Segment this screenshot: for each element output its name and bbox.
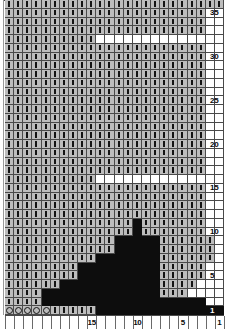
- cell-purl[interactable]: [5, 149, 14, 158]
- cell-filled[interactable]: [142, 263, 151, 272]
- cell-filled[interactable]: [96, 289, 105, 298]
- cell-purl[interactable]: [69, 254, 78, 263]
- cell-purl[interactable]: [51, 236, 60, 245]
- cell-purl[interactable]: [23, 228, 32, 237]
- cell-purl[interactable]: [51, 9, 60, 18]
- cell-filled[interactable]: [124, 254, 133, 263]
- cell-purl[interactable]: [78, 236, 87, 245]
- cell-purl[interactable]: [42, 149, 51, 158]
- cell-purl[interactable]: [32, 96, 41, 105]
- cell-purl[interactable]: [197, 271, 206, 280]
- cell-purl[interactable]: [96, 88, 105, 97]
- cell-purl[interactable]: [51, 210, 60, 219]
- cell-purl[interactable]: [69, 0, 78, 9]
- cell-purl[interactable]: [87, 9, 96, 18]
- cell-purl[interactable]: [60, 18, 69, 27]
- cell-purl[interactable]: [5, 61, 14, 70]
- cell-purl[interactable]: [51, 96, 60, 105]
- cell-purl[interactable]: [78, 166, 87, 175]
- cell-purl[interactable]: [60, 70, 69, 79]
- cell-purl[interactable]: [51, 18, 60, 27]
- cell-purl[interactable]: [160, 149, 169, 158]
- cell-filled[interactable]: [124, 280, 133, 289]
- cell-yarnover[interactable]: [23, 306, 32, 315]
- cell-purl[interactable]: [197, 61, 206, 70]
- cell-purl[interactable]: [42, 79, 51, 88]
- cell-filled[interactable]: [151, 298, 160, 307]
- cell-purl[interactable]: [87, 254, 96, 263]
- cell-purl[interactable]: [188, 201, 197, 210]
- cell-purl[interactable]: [151, 158, 160, 167]
- cell-purl[interactable]: [96, 18, 105, 27]
- cell-purl[interactable]: [169, 123, 178, 132]
- cell-filled[interactable]: [188, 306, 197, 315]
- cell-purl[interactable]: [5, 131, 14, 140]
- cell-filled[interactable]: [197, 298, 206, 307]
- cell-purl[interactable]: [42, 175, 51, 184]
- cell-purl[interactable]: [178, 96, 187, 105]
- cell-purl[interactable]: [87, 123, 96, 132]
- cell-purl[interactable]: [105, 210, 114, 219]
- cell-filled[interactable]: [51, 289, 60, 298]
- cell-purl[interactable]: [87, 149, 96, 158]
- cell-purl[interactable]: [51, 245, 60, 254]
- cell-purl[interactable]: [69, 96, 78, 105]
- cell-purl[interactable]: [188, 61, 197, 70]
- cell-purl[interactable]: [96, 114, 105, 123]
- cell-purl[interactable]: [51, 228, 60, 237]
- cell-purl[interactable]: [14, 123, 23, 132]
- cell-filled[interactable]: [151, 245, 160, 254]
- cell-purl[interactable]: [87, 210, 96, 219]
- cell-purl[interactable]: [142, 140, 151, 149]
- cell-purl[interactable]: [5, 289, 14, 298]
- cell-purl[interactable]: [60, 88, 69, 97]
- cell-filled[interactable]: [133, 289, 142, 298]
- cell-purl[interactable]: [124, 61, 133, 70]
- cell-filled[interactable]: [133, 306, 142, 315]
- cell-purl[interactable]: [142, 61, 151, 70]
- cell-purl[interactable]: [133, 26, 142, 35]
- cell-purl[interactable]: [115, 88, 124, 97]
- cell-purl[interactable]: [160, 131, 169, 140]
- cell-filled[interactable]: [115, 236, 124, 245]
- cell-purl[interactable]: [32, 254, 41, 263]
- cell-purl[interactable]: [178, 44, 187, 53]
- cell-purl[interactable]: [14, 44, 23, 53]
- cell-blank[interactable]: [115, 35, 124, 44]
- cell-purl[interactable]: [69, 210, 78, 219]
- cell-purl[interactable]: [96, 70, 105, 79]
- cell-purl[interactable]: [78, 70, 87, 79]
- cell-purl[interactable]: [42, 140, 51, 149]
- cell-purl[interactable]: [197, 193, 206, 202]
- cell-purl[interactable]: [169, 105, 178, 114]
- cell-purl[interactable]: [105, 79, 114, 88]
- cell-purl[interactable]: [160, 236, 169, 245]
- cell-purl[interactable]: [23, 35, 32, 44]
- cell-purl[interactable]: [151, 96, 160, 105]
- cell-empty[interactable]: [197, 280, 206, 289]
- cell-purl[interactable]: [87, 61, 96, 70]
- cell-filled[interactable]: [124, 306, 133, 315]
- cell-purl[interactable]: [151, 61, 160, 70]
- cell-purl[interactable]: [105, 201, 114, 210]
- cell-blank[interactable]: [188, 35, 197, 44]
- cell-purl[interactable]: [188, 254, 197, 263]
- cell-purl[interactable]: [32, 289, 41, 298]
- cell-purl[interactable]: [32, 271, 41, 280]
- cell-purl[interactable]: [178, 193, 187, 202]
- cell-purl[interactable]: [96, 53, 105, 62]
- cell-purl[interactable]: [32, 158, 41, 167]
- cell-purl[interactable]: [87, 105, 96, 114]
- cell-purl[interactable]: [23, 9, 32, 18]
- cell-purl[interactable]: [133, 0, 142, 9]
- cell-purl[interactable]: [14, 53, 23, 62]
- cell-purl[interactable]: [105, 131, 114, 140]
- cell-purl[interactable]: [197, 210, 206, 219]
- cell-purl[interactable]: [51, 105, 60, 114]
- cell-purl[interactable]: [5, 201, 14, 210]
- cell-purl[interactable]: [78, 53, 87, 62]
- cell-purl[interactable]: [60, 193, 69, 202]
- cell-purl[interactable]: [87, 228, 96, 237]
- cell-purl[interactable]: [160, 228, 169, 237]
- cell-purl[interactable]: [178, 149, 187, 158]
